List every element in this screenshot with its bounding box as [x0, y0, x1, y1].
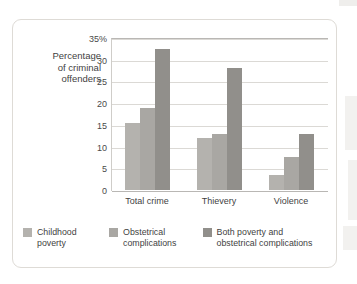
y-axis-title: Percentage of criminal offenders [19, 50, 101, 85]
legend-label: Obstetricalcomplications [123, 227, 176, 249]
y-axis-tick-label: 25 [97, 77, 107, 87]
x-axis-tick-label: Thievery [183, 196, 255, 206]
x-axis-tick-label: Violence [255, 196, 327, 206]
legend-label: Both poverty andobstetrical complication… [217, 227, 313, 249]
legend-item: Obstetricalcomplications [109, 227, 203, 249]
y-axis-title-line: offenders [19, 73, 101, 85]
y-axis-tick-label: 0 [102, 186, 107, 196]
scan-artifact [343, 226, 357, 250]
legend-label-line: Both poverty and [217, 227, 313, 238]
figure-panel: Percentage of criminal offenders 0510152… [12, 19, 337, 268]
chart-legend: ChildhoodpovertyObstetricalcomplications… [23, 227, 335, 249]
legend-label-line: Obstetrical [123, 227, 176, 238]
bar-chart: Percentage of criminal offenders 0510152… [13, 20, 338, 225]
scan-artifact [339, 0, 357, 6]
legend-item: Both poverty andobstetrical complication… [203, 227, 335, 249]
y-axis-tick-label: 35% [89, 34, 107, 44]
legend-swatch [203, 228, 212, 237]
legend-swatch [109, 228, 118, 237]
gridline: 5 [112, 169, 328, 170]
scan-artifact [345, 96, 357, 150]
gridline: 35% [112, 39, 328, 40]
y-axis-tick-label: 10 [97, 143, 107, 153]
legend-label-line: obstetrical complications [217, 238, 313, 249]
legend-label-line: poverty [37, 238, 77, 249]
plot-area: 05101520253035% [111, 38, 328, 191]
y-axis-title-line: Percentage [19, 50, 101, 62]
y-axis-tick-label: 5 [102, 164, 107, 174]
gridline: 25 [112, 82, 328, 83]
x-axis-tick-label: Total crime [111, 196, 183, 206]
y-axis-title-line: of criminal [19, 62, 101, 74]
x-axis-labels: Total crimeThieveryViolence [111, 196, 327, 206]
legend-item: Childhoodpoverty [23, 227, 109, 249]
gridline: 20 [112, 104, 328, 105]
legend-swatch [23, 228, 32, 237]
legend-label-line: complications [123, 238, 176, 249]
gridline: 10 [112, 148, 328, 149]
y-axis-tick-label: 20 [97, 99, 107, 109]
gridline: 30 [112, 61, 328, 62]
y-axis-tick-label: 30 [97, 56, 107, 66]
y-axis-tick-label: 15 [97, 121, 107, 131]
gridline: 0 [112, 191, 328, 192]
gridline: 15 [112, 126, 328, 127]
legend-label-line: Childhood [37, 227, 77, 238]
scan-artifact [348, 160, 357, 220]
legend-label: Childhoodpoverty [37, 227, 77, 249]
